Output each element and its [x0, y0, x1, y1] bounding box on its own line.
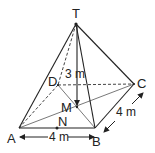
point-T [74, 22, 77, 25]
pyramid-diagram: T D C M N A B 3 m 4 m 4 m [0, 0, 155, 153]
dimension-BC-label: 4 m [116, 105, 136, 119]
label-T: T [72, 6, 80, 21]
dimension-arrow-BC-lower [104, 121, 115, 132]
label-A: A [7, 131, 16, 146]
dimension-height-label: 3 m [65, 67, 85, 81]
label-C: C [137, 76, 146, 91]
label-D: D [48, 74, 57, 89]
dimension-arrow-BC-upper [132, 93, 143, 104]
label-N: N [58, 114, 67, 129]
label-M: M [61, 100, 72, 115]
label-B: B [92, 134, 101, 149]
edge-DC [58, 84, 134, 85]
dimension-AB-label: 4 m [49, 130, 69, 144]
point-C [133, 83, 135, 85]
point-M [76, 106, 78, 108]
